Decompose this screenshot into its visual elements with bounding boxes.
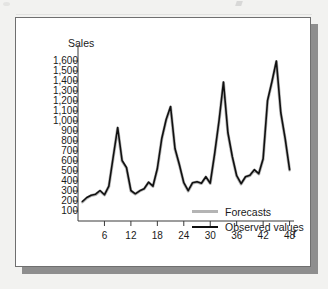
legend-label-observed-values: Observed values [225, 221, 304, 233]
y-axis-title: Sales [68, 37, 94, 49]
chart-card: 1002003004005006007008009001,0001,1001,2… [15, 17, 311, 267]
legend-item-observed-values: Observed values [192, 219, 304, 234]
legend-label-forecasts: Forecasts [225, 206, 271, 218]
legend-line-observed-icon [192, 226, 218, 228]
legend-line-forecasts-icon [192, 210, 218, 213]
x-axis-tick-label: 18 [145, 231, 169, 241]
scan-artifact-line [16, 14, 312, 15]
chart-plot-area: 1002003004005006007008009001,0001,1001,2… [16, 18, 312, 268]
figure-root: 1002003004005006007008009001,0001,1001,2… [0, 0, 328, 289]
legend-item-forecasts: Forecasts [192, 204, 304, 219]
x-axis-tick-label: 6 [92, 231, 116, 241]
scan-artifact-speck-left [3, 2, 10, 6]
chart-legend: Forecasts Observed values [192, 204, 304, 234]
scan-artifact-speck-right [235, 1, 243, 6]
x-axis-tick-label: 12 [119, 231, 143, 241]
